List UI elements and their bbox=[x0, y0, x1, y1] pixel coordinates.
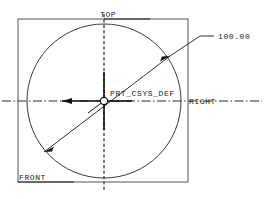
csys-origin-marker bbox=[100, 97, 107, 104]
diameter-dimension-line bbox=[44, 56, 170, 152]
label-top-datum: TOP bbox=[100, 10, 116, 19]
label-right-datum: RIGHT bbox=[189, 97, 216, 106]
label-front-datum: FRONT bbox=[19, 173, 46, 182]
dimension-arrow-lower-left bbox=[44, 147, 54, 153]
dimension-leader-slant bbox=[170, 36, 200, 56]
cad-drawing-canvas[interactable]: TOP RIGHT FRONT PRT_CSYS_DEF 100.00 bbox=[0, 0, 264, 199]
cad-drawing-svg: TOP RIGHT FRONT PRT_CSYS_DEF 100.00 bbox=[0, 0, 264, 199]
label-diameter-dimension: 100.00 bbox=[218, 32, 250, 41]
csys-arrow-x bbox=[62, 98, 72, 104]
label-csys: PRT_CSYS_DEF bbox=[110, 89, 175, 98]
